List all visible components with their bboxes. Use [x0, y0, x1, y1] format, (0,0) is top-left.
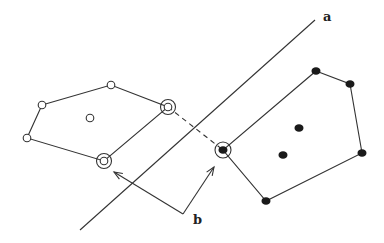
open-point: [86, 114, 94, 122]
open-point: [100, 157, 108, 165]
label-a: a: [323, 9, 332, 24]
open-class-points: [23, 81, 175, 168]
filled-point: [279, 151, 288, 159]
filled-point: [312, 67, 321, 75]
filled-point: [346, 80, 355, 88]
diagram-canvas: a b: [0, 0, 384, 243]
filled-class-points: [215, 67, 367, 205]
open-point: [23, 134, 31, 142]
filled-point: [358, 149, 367, 157]
open-point: [164, 103, 172, 111]
support-arrows-b: [114, 167, 214, 214]
arrow-shaft: [114, 172, 183, 214]
filled-class-hull: [223, 71, 362, 201]
label-b: b: [193, 212, 202, 227]
arrow-shaft: [183, 167, 214, 214]
filled-point: [295, 124, 304, 132]
open-class-hull: [27, 85, 168, 161]
arrow-head: [207, 167, 214, 176]
arrow-head: [114, 172, 123, 179]
open-point: [38, 101, 46, 109]
filled-point: [219, 146, 228, 154]
open-point: [107, 81, 115, 89]
filled-point: [262, 197, 271, 205]
separating-line-a: [80, 20, 315, 230]
